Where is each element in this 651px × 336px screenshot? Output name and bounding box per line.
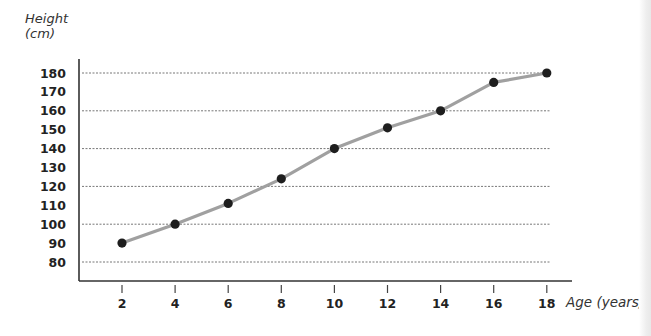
x-tick-label: 18 <box>538 296 555 311</box>
x-tick-label: 6 <box>224 296 233 311</box>
y-tick-label: 130 <box>40 160 66 175</box>
x-tick-label: 16 <box>485 296 503 311</box>
x-tick-label: 12 <box>379 296 396 311</box>
y-tick-label: 140 <box>40 141 66 156</box>
data-point <box>224 199 233 208</box>
y-tick-label: 100 <box>40 217 66 232</box>
y-tick-label: 80 <box>49 255 67 270</box>
data-point <box>277 174 286 183</box>
y-tick-label: 160 <box>40 103 66 118</box>
series-line <box>122 73 547 243</box>
data-point <box>171 220 180 229</box>
x-tick-label: 4 <box>171 296 180 311</box>
data-point <box>542 68 551 77</box>
y-tick-label: 90 <box>49 236 67 251</box>
x-tick-label: 14 <box>432 296 450 311</box>
data-point <box>489 78 498 87</box>
page-edge-shadow <box>639 0 651 336</box>
y-axis-ticks: 8090100110120130140150160170180 <box>40 66 66 270</box>
y-tick-label: 150 <box>40 122 66 137</box>
y-tick-label: 180 <box>40 66 66 81</box>
data-point <box>436 106 445 115</box>
data-point <box>117 239 126 248</box>
x-axis-ticks: 24681012141618 <box>118 285 556 311</box>
data-point <box>383 123 392 132</box>
x-tick-label: 2 <box>118 296 127 311</box>
y-tick-label: 120 <box>40 179 66 194</box>
x-tick-label: 8 <box>277 296 286 311</box>
data-point <box>330 144 339 153</box>
y-tick-label: 110 <box>40 198 66 213</box>
y-tick-label: 170 <box>40 84 66 99</box>
line-chart: 8090100110120130140150160170180 24681012… <box>0 0 651 336</box>
x-tick-label: 10 <box>326 296 344 311</box>
